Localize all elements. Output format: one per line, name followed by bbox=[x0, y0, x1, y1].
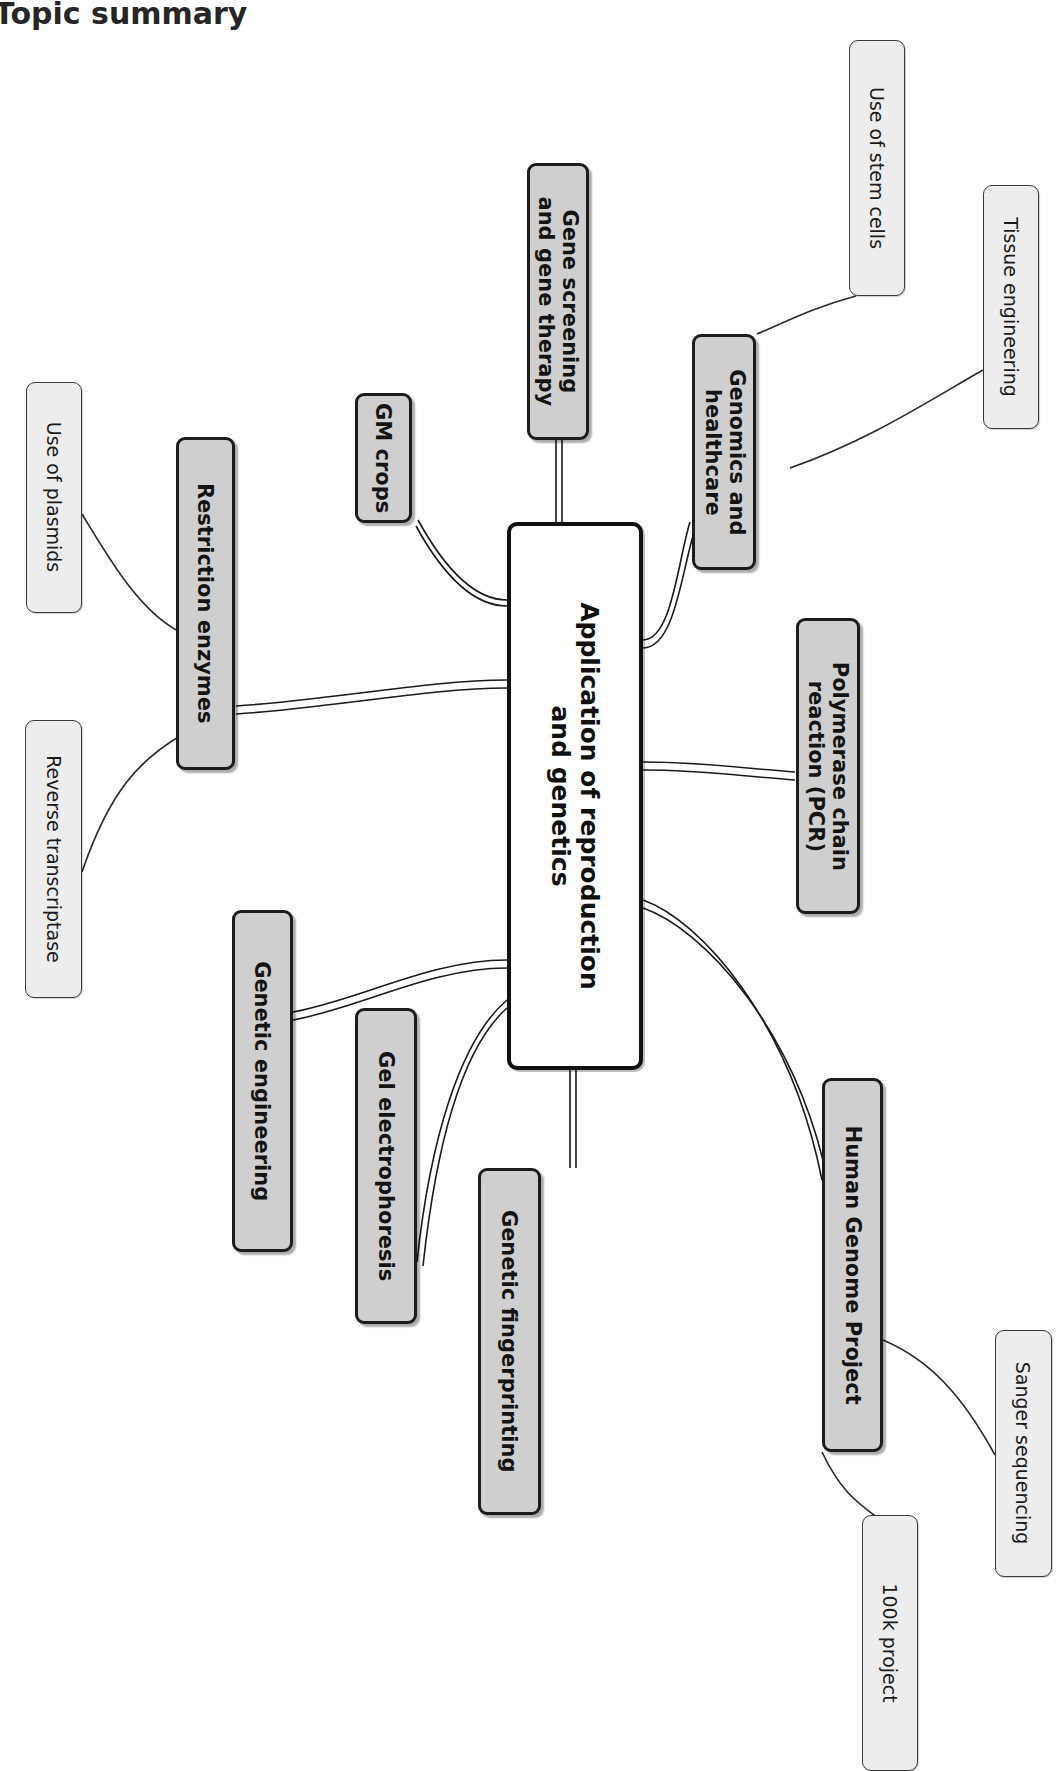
mindmap-branch-genetic-engineering[interactable]: Genetic engineering bbox=[232, 910, 293, 1252]
mindmap-branch-label: Gene screening and gene therapy bbox=[534, 197, 583, 407]
mindmap-leaf-use-of-plasmids[interactable]: Use of plasmids bbox=[26, 382, 82, 613]
mindmap-center-label: Application of reproduction and genetics bbox=[546, 602, 604, 990]
mindmap-leaf-use-of-stem-cells[interactable]: Use of stem cells bbox=[849, 40, 905, 296]
mindmap-branch-human-genome-project[interactable]: Human Genome Project bbox=[822, 1078, 883, 1452]
mindmap-branch-label: GM crops bbox=[371, 403, 395, 513]
mindmap-leaf-label: 100k project bbox=[879, 1583, 901, 1702]
mindmap-branch-label: Human Genome Project bbox=[840, 1125, 864, 1404]
mindmap-center-node[interactable]: Application of reproduction and genetics bbox=[507, 522, 643, 1070]
mindmap-branch-gm-crops[interactable]: GM crops bbox=[355, 393, 412, 523]
mindmap-leaf-100k-project[interactable]: 100k project bbox=[862, 1515, 918, 1771]
mindmap-branch-pcr[interactable]: Polymerase chain reaction (PCR) bbox=[796, 618, 860, 914]
mindmap-branch-label: Restriction enzymes bbox=[193, 483, 217, 724]
mindmap-leaf-reverse-transcriptase[interactable]: Reverse transcriptase bbox=[25, 720, 82, 998]
mindmap-branch-label: Gel electrophoresis bbox=[374, 1051, 398, 1281]
mindmap-branch-label: Genetic fingerprinting bbox=[497, 1210, 521, 1473]
mindmap-branch-gene-screening[interactable]: Gene screening and gene therapy bbox=[527, 163, 589, 440]
mindmap-branch-label: Polymerase chain reaction (PCR) bbox=[804, 661, 853, 870]
mindmap-leaf-label: Use of stem cells bbox=[866, 87, 888, 249]
mindmap-branch-label: Genetic engineering bbox=[250, 961, 274, 1201]
mindmap-branch-gel-electrophoresis[interactable]: Gel electrophoresis bbox=[355, 1008, 417, 1324]
mindmap-branch-genomics-and-healthcare[interactable]: Genomics and healthcare bbox=[692, 334, 756, 570]
mindmap-branch-genetic-fingerprinting[interactable]: Genetic fingerprinting bbox=[478, 1168, 541, 1515]
mindmap-canvas: Topic summary bbox=[0, 0, 1059, 1771]
mindmap-leaf-label: Tissue engineering bbox=[1000, 217, 1022, 397]
mindmap-branch-label: Genomics and healthcare bbox=[700, 369, 749, 535]
mindmap-branch-restriction-enzymes[interactable]: Restriction enzymes bbox=[176, 437, 235, 770]
mindmap-leaf-label: Use of plasmids bbox=[43, 422, 65, 573]
mindmap-leaf-label: Reverse transcriptase bbox=[42, 755, 64, 963]
mindmap-leaf-tissue-engineering[interactable]: Tissue engineering bbox=[983, 185, 1039, 429]
mindmap-leaf-sanger-sequencing[interactable]: Sanger sequencing bbox=[995, 1330, 1052, 1577]
mindmap-leaf-label: Sanger sequencing bbox=[1012, 1362, 1034, 1545]
